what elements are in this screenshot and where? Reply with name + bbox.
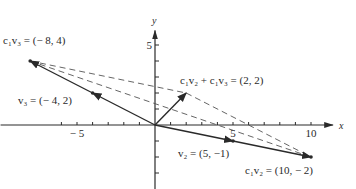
dashed-line [30, 61, 186, 93]
vector-sum [155, 93, 186, 125]
point-dot [28, 59, 32, 63]
point-dot [91, 91, 95, 95]
label-v2: v₂ = (5, −1) [178, 147, 229, 160]
label-c1v2: c₁v₂ = (10, − 2) [245, 164, 313, 177]
diagram-canvas: xy − 55105 v₃ = (− 4, 2)c₁v₃ = (− 8, 4)v… [0, 0, 356, 189]
point-dot [231, 139, 235, 143]
label-v3: v₃ = (− 4, 2) [18, 94, 72, 107]
y-axis-label: y [151, 15, 157, 26]
x-tick-label: − 5 [70, 127, 85, 139]
x-tick-label: 5 [230, 127, 236, 139]
x-tick-label: 10 [306, 127, 318, 139]
point-dot [309, 155, 313, 159]
vectors [28, 59, 312, 159]
x-axis-label: x [338, 120, 344, 131]
label-sum: c₁v₂ + c₁v₃ = (2, 2) [180, 74, 264, 87]
vector-diagram: xy − 55105 v₃ = (− 4, 2)c₁v₃ = (− 8, 4)v… [0, 0, 356, 189]
labels: v₃ = (− 4, 2)c₁v₃ = (− 8, 4)v₂ = (5, −1)… [3, 34, 313, 177]
y-tick-label: 5 [147, 39, 153, 51]
label-c1v3: c₁v₃ = (− 8, 4) [3, 34, 66, 47]
